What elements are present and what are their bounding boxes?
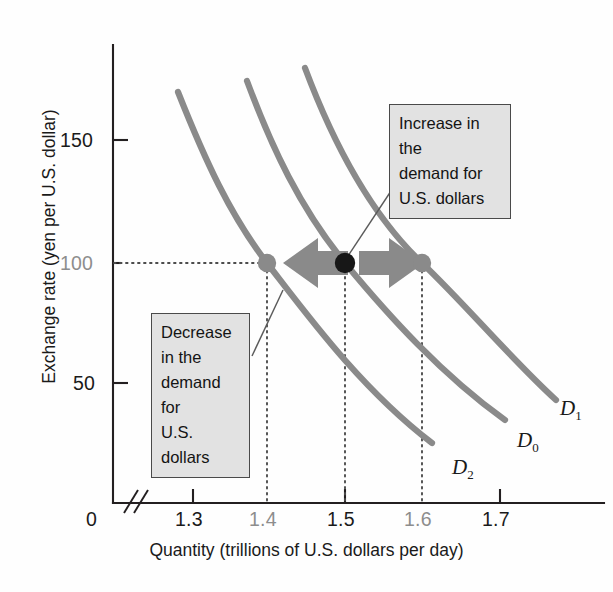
equilibrium-dot-initial — [335, 253, 355, 273]
x-axis-title: Quantity (trillions of U.S. dollars per … — [0, 540, 613, 561]
y-tick-label-100: 100 — [60, 252, 93, 275]
curve-label-d2-letter: D — [452, 455, 467, 479]
curve-label-d0-subscript: 0 — [532, 440, 539, 455]
exchange-rate-demand-chart: Exchange rate (yen per U.S. dollar) Quan… — [0, 0, 613, 592]
curve-label-d1-subscript: 1 — [575, 408, 582, 423]
curve-label-d0-letter: D — [517, 428, 532, 452]
decrease-callout-leader — [252, 290, 283, 356]
origin-label: 0 — [86, 508, 97, 531]
y-axis-ticks — [113, 140, 128, 383]
y-tick-label-150: 150 — [60, 129, 93, 152]
x-tick-label-1-5: 1.5 — [327, 508, 355, 531]
increase-demand-callout: Increase in the demand for U.S. dollars — [389, 104, 511, 219]
decrease-demand-callout: Decrease in the demand for U.S. dollars — [151, 313, 250, 478]
x-tick-label-1-4: 1.4 — [249, 508, 277, 531]
curve-label-d1-letter: D — [560, 396, 575, 420]
equilibrium-dot-decreased — [258, 254, 276, 272]
axis-break-marks — [124, 490, 148, 513]
equilibrium-dot-increased — [413, 254, 431, 272]
curve-label-d2-subscript: 2 — [467, 467, 474, 482]
x-tick-label-1-6: 1.6 — [404, 508, 432, 531]
curve-label-d2: D2 — [452, 455, 474, 483]
chart-canvas — [0, 0, 613, 592]
x-tick-label-1-3: 1.3 — [175, 508, 203, 531]
curve-label-d0: D0 — [517, 428, 539, 456]
y-axis-title: Exchange rate (yen per U.S. dollar) — [39, 102, 60, 392]
curve-label-d1: D1 — [560, 396, 582, 424]
x-tick-label-1-7: 1.7 — [482, 508, 510, 531]
y-tick-label-50: 50 — [73, 372, 95, 395]
x-axis-ticks — [193, 489, 500, 503]
